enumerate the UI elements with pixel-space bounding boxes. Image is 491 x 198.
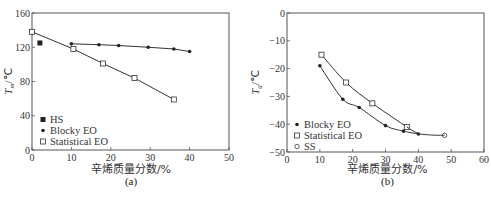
axes: 0102030405004080120160Tm/℃ bbox=[2, 8, 234, 164]
blocky-eo-data-point bbox=[357, 106, 361, 110]
blocky-eo-data-point bbox=[97, 43, 101, 47]
y-tick-label: 0 bbox=[280, 8, 285, 19]
legend: HSBlocky EOStatistical EO bbox=[41, 114, 109, 147]
legend-statistical-eo-data-point bbox=[41, 139, 46, 144]
axes: 01020304050600−10−20−30−40−50Tg/℃ bbox=[249, 8, 489, 166]
y-tick-label: 160 bbox=[15, 8, 30, 19]
series-blocky-eo bbox=[70, 42, 192, 53]
blocky-eo-data-point bbox=[172, 47, 176, 51]
y-tick-label: 40 bbox=[20, 110, 30, 121]
legend-label: Blocky EO bbox=[304, 119, 351, 130]
y-tick-label: −50 bbox=[269, 147, 285, 158]
statistical-eo-data-point bbox=[344, 80, 349, 85]
y-tick-label: −30 bbox=[269, 91, 285, 102]
y-tick-label: 80 bbox=[20, 76, 30, 87]
y-tick-label: 0 bbox=[25, 145, 30, 156]
series-statistical-eo bbox=[319, 52, 409, 129]
series-statistical-eo bbox=[30, 29, 177, 102]
legend-label: Statistical EO bbox=[304, 130, 362, 141]
trend-extension bbox=[418, 134, 444, 135]
hs-data-point bbox=[37, 40, 42, 45]
chart-a-caption: (a) bbox=[0, 175, 262, 187]
statistical-eo-data-point bbox=[132, 76, 137, 81]
legend-ss-data-point bbox=[295, 144, 299, 148]
blocky-eo-data-point bbox=[402, 129, 406, 133]
legend-label: SS bbox=[304, 141, 316, 152]
statistical-eo-data-point bbox=[370, 101, 375, 106]
legend-label: Blocky EO bbox=[50, 125, 97, 136]
y-axis-label: Tg/℃ bbox=[249, 70, 263, 95]
blocky-eo-data-point bbox=[146, 45, 150, 49]
series-hs bbox=[37, 40, 42, 45]
blocky-eo-data-point bbox=[384, 124, 388, 128]
statistical-eo-data-point bbox=[319, 52, 324, 57]
legend-blocky-eo-data-point bbox=[295, 123, 299, 127]
statistical-eo-data-point bbox=[100, 61, 105, 66]
statistical-eo-data-point bbox=[30, 29, 35, 34]
legend-statistical-eo-data-point bbox=[295, 133, 300, 138]
blocky-eo-data-point bbox=[341, 97, 345, 101]
blocky-eo-data-point bbox=[70, 42, 74, 46]
y-tick-label: 120 bbox=[15, 42, 30, 53]
chart-b-xlabel: 辛烯质量分数/% bbox=[245, 160, 491, 176]
statistical-eo-data-point bbox=[171, 97, 176, 102]
statistical-eo-data-point bbox=[71, 46, 76, 51]
chart-a-melting-temperature: 0102030405004080120160Tm/℃HSBlocky EOSta… bbox=[0, 0, 245, 198]
legend-blocky-eo-data-point bbox=[41, 129, 45, 133]
y-tick-label: −20 bbox=[269, 63, 285, 74]
y-axis-label: Tm/℃ bbox=[2, 68, 16, 94]
blocky-eo-data-point bbox=[318, 64, 322, 68]
blocky-eo-data-point bbox=[117, 44, 121, 48]
chart-a-xlabel: 辛烯质量分数/% bbox=[0, 160, 262, 176]
chart-b-caption: (b) bbox=[245, 175, 491, 187]
chart-b-glass-transition-temperature: 01020304050600−10−20−30−40−50Tg/℃Blocky … bbox=[245, 0, 491, 198]
legend-label: HS bbox=[50, 114, 64, 125]
legend-hs-data-point bbox=[41, 117, 46, 122]
y-tick-label: −40 bbox=[269, 119, 285, 130]
legend: Blocky EOStatistical EOSS bbox=[295, 119, 363, 152]
y-tick-label: −10 bbox=[269, 35, 285, 46]
blocky-eo-data-point bbox=[188, 50, 192, 54]
legend-label: Statistical EO bbox=[50, 136, 108, 147]
